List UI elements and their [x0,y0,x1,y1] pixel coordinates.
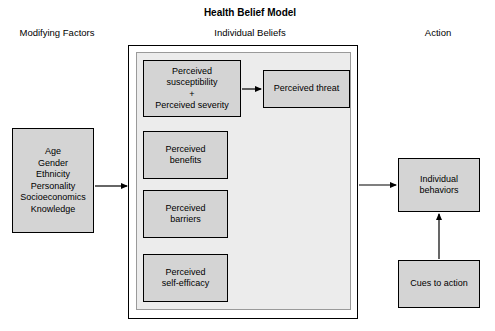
belief-line: Perceived [165,144,205,156]
belief-line: barriers [170,214,201,226]
cues-to-action-box: Cues to action [398,260,480,308]
modifying-factor-line: Gender [38,158,68,170]
belief-box-self-efficacy: Perceived self-efficacy [143,254,228,302]
belief-line: Perceived [172,66,212,78]
individual-behaviors-box: Individual behaviors [398,158,480,212]
belief-line: benefits [170,155,202,167]
behavior-line: behaviors [419,185,458,197]
diagram-canvas: Health Belief Model Modifying Factors In… [0,0,495,331]
behavior-line: Individual [420,174,458,186]
belief-box-barriers: Perceived barriers [143,190,228,238]
column-label-modifying-factors: Modifying Factors [2,27,112,38]
belief-box-susceptibility-severity: Perceived susceptibility + Perceived sev… [143,60,241,117]
column-label-action: Action [398,27,478,38]
modifying-factor-line: Socioeconomics [20,192,86,204]
cues-to-action-label: Cues to action [410,278,468,290]
belief-box-benefits: Perceived benefits [143,131,228,179]
modifying-factor-line: Age [45,146,61,158]
belief-line: + [189,89,194,101]
modifying-factors-box: Age Gender Ethnicity Personality Socioec… [12,128,94,233]
diagram-title: Health Belief Model [190,7,310,18]
modifying-factor-line: Ethnicity [36,169,70,181]
belief-line: Perceived [165,267,205,279]
perceived-threat-box: Perceived threat [263,70,350,108]
belief-line: Perceived severity [155,100,229,112]
belief-line: Perceived [165,203,205,215]
perceived-threat-label: Perceived threat [274,83,340,95]
belief-line: susceptibility [166,77,217,89]
modifying-factor-line: Knowledge [31,204,76,216]
belief-line: self-efficacy [162,278,209,290]
modifying-factor-line: Personality [31,181,76,193]
column-label-individual-beliefs: Individual Beliefs [190,27,310,38]
